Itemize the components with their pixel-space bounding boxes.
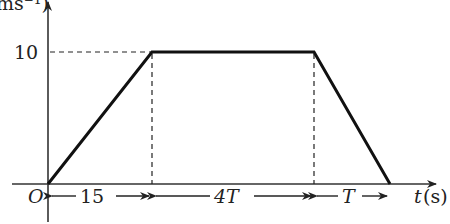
segment-T-label: T [342,187,355,206]
velocity-time-graph: ms⁻¹) 10 O 15 4T T t (s) [0,0,450,224]
tick-10: 10 [14,43,38,62]
velocity-curve [48,52,390,184]
x-axis-variable: t [414,187,422,206]
segment-4T-label: 4T [214,187,239,206]
segment-15-label: 15 [80,187,104,206]
y-axis-label: ms⁻¹) [0,0,49,13]
origin-label: O [28,187,44,206]
x-axis-unit: (s) [423,187,448,206]
